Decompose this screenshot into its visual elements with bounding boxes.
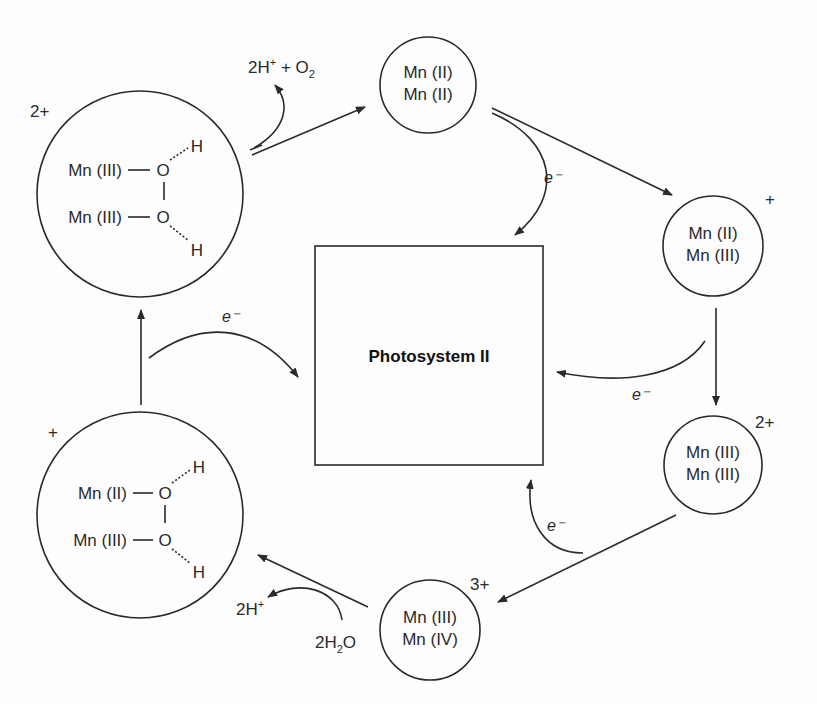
charge-label: +	[765, 190, 775, 209]
hydrogen-bottom: H	[191, 241, 203, 260]
charge-label: 2+	[755, 413, 774, 432]
mn-line-2: Mn (II)	[403, 85, 452, 104]
hydrogen-top: H	[193, 458, 205, 477]
mn-line-1: Mn (II)	[403, 63, 452, 82]
mn-label-top: Mn (III)	[68, 161, 122, 180]
mn-line-1: Mn (II)	[688, 224, 737, 243]
o2-release-arrow	[254, 85, 284, 148]
mn-label-top: Mn (II)	[78, 484, 127, 503]
oxygen-top: O	[158, 484, 171, 503]
oxygen-bottom: O	[158, 531, 171, 550]
charge-label: 2+	[30, 102, 49, 121]
mn-label-bottom: Mn (III)	[73, 531, 127, 550]
photosystem-ii-box: Photosystem II	[315, 246, 543, 465]
water-input-label: 2H2O	[315, 633, 356, 655]
diagram-canvas: Photosystem II 2+ Mn (III) O Mn (III) O …	[0, 0, 817, 704]
mn-label-bottom: Mn (III)	[68, 208, 122, 227]
state-s0-mn3-mn3-peroxo: 2+ Mn (III) O Mn (III) O H H	[30, 91, 243, 297]
cycle-diagram: Photosystem II 2+ Mn (III) O Mn (III) O …	[0, 0, 817, 704]
mn-line-2: Mn (III)	[686, 465, 740, 484]
proton-release-label: 2H+	[236, 598, 264, 619]
charge-label: 3+	[470, 575, 489, 594]
arrow-s2-to-s3: e⁻	[557, 308, 716, 405]
o2-release-label: 2H+ + O2	[248, 56, 315, 80]
hydrogen-bottom: H	[193, 563, 205, 582]
mn-line-1: Mn (III)	[686, 443, 740, 462]
state-s2-mn2-mn3: + Mn (II) Mn (III)	[663, 190, 775, 296]
arrow-s1-to-s2: e⁻	[492, 108, 672, 235]
electron-label-2: e⁻	[632, 386, 651, 403]
state-s5-mn2-mn3-peroxo: + Mn (II) O Mn (III) O H H	[37, 412, 243, 618]
water-proton-arrow	[268, 588, 342, 620]
mn-line-2: Mn (III)	[686, 246, 740, 265]
electron-arrow-2	[557, 341, 705, 378]
state-s3-mn3-mn3: 2+ Mn (III) Mn (III)	[664, 413, 774, 514]
oxygen-top: O	[156, 161, 169, 180]
electron-arrow-4	[149, 332, 298, 377]
arrow-s0-to-s1: 2H+ + O2	[248, 56, 365, 155]
photosystem-ii-label: Photosystem II	[369, 347, 490, 366]
oxygen-bottom: O	[156, 208, 169, 227]
arrow-s5-to-s0: e⁻	[141, 308, 298, 405]
electron-label-1: e⁻	[544, 169, 563, 186]
electron-label-3: e⁻	[547, 517, 566, 534]
arrow-s3-to-s4: e⁻	[498, 480, 676, 602]
hydrogen-top: H	[191, 137, 203, 156]
mn-line-1: Mn (III)	[403, 608, 457, 627]
arrow-s4-to-s5: 2H+ 2H2O	[236, 555, 368, 655]
electron-label-4: e⁻	[222, 308, 241, 325]
mn-line-2: Mn (IV)	[402, 630, 458, 649]
state-s4-mn3-mn4: 3+ Mn (III) Mn (IV)	[380, 575, 489, 680]
charge-label: +	[48, 423, 58, 442]
state-s1-mn2-mn2: Mn (II) Mn (II)	[380, 37, 476, 133]
